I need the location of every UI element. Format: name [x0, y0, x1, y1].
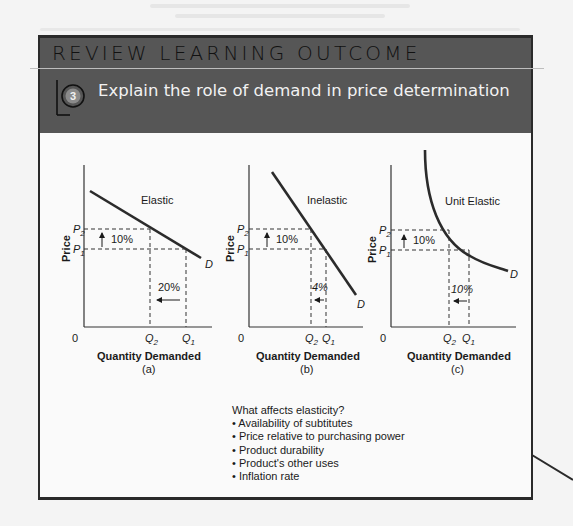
svg-text:10%: 10% [276, 233, 298, 245]
svg-text:(a): (a) [142, 363, 155, 375]
svg-text:0: 0 [238, 332, 244, 344]
factor-item: Product's other uses [232, 457, 405, 470]
svg-text:D: D [357, 298, 365, 310]
svg-text:Unit Elastic: Unit Elastic [445, 195, 501, 207]
svg-text:Quantity Demanded: Quantity Demanded [407, 350, 511, 362]
factor-item: Availability of subtitutes [232, 417, 405, 430]
svg-text:P1: P1 [379, 244, 391, 259]
svg-text:Quantity Demanded: Quantity Demanded [97, 350, 201, 362]
svg-text:Q2: Q2 [305, 332, 319, 347]
svg-text:0: 0 [72, 332, 78, 344]
page-corner-fold [532, 385, 573, 480]
svg-text:Price: Price [224, 235, 236, 262]
svg-text:0: 0 [380, 332, 386, 344]
chart-inelastic: Inelastic Price P2 P1 10% 4% D 0 Q2 Q1 Q… [224, 165, 365, 375]
svg-text:P1: P1 [73, 243, 85, 258]
svg-text:10%: 10% [111, 233, 133, 245]
factors-heading: What affects elasticity? [232, 404, 405, 417]
svg-text:Price: Price [366, 236, 378, 263]
svg-text:Quantity Demanded: Quantity Demanded [256, 350, 360, 362]
factor-item: Product durability [232, 444, 405, 457]
svg-text:(b): (b) [300, 363, 313, 375]
svg-text:Q2: Q2 [443, 332, 457, 347]
svg-text:P2: P2 [237, 223, 249, 238]
svg-text:P2: P2 [379, 224, 391, 239]
elasticity-factors: What affects elasticity? Availability of… [232, 404, 405, 483]
svg-text:Elastic: Elastic [141, 194, 174, 206]
svg-text:Price: Price [60, 235, 72, 262]
svg-text:Q1: Q1 [322, 332, 335, 347]
svg-text:D: D [510, 268, 518, 280]
factor-item: Inflation rate [232, 470, 405, 483]
demand-curve [425, 150, 508, 271]
svg-text:10%: 10% [451, 283, 473, 295]
svg-text:D: D [205, 258, 213, 270]
factor-item: Price relative to purchasing power [232, 430, 405, 443]
svg-text:20%: 20% [158, 281, 180, 293]
svg-text:Q1: Q1 [462, 332, 475, 347]
svg-text:Q2: Q2 [145, 332, 159, 347]
factors-list: Availability of subtitutes Price relativ… [232, 417, 405, 483]
chart-unit-elastic: Unit Elastic Price P2 P1 10% 10% D 0 Q2 … [366, 150, 518, 375]
svg-text:Q1: Q1 [182, 332, 195, 347]
svg-text:P1: P1 [237, 243, 249, 258]
svg-text:Inelastic: Inelastic [307, 194, 348, 206]
svg-text:(c): (c) [451, 363, 464, 375]
svg-text:10%: 10% [413, 234, 435, 246]
svg-text:4%: 4% [312, 281, 328, 293]
chart-elastic: Elastic Price P2 P1 10% 20% D 0 Q2 Q1 Qu… [60, 165, 213, 375]
